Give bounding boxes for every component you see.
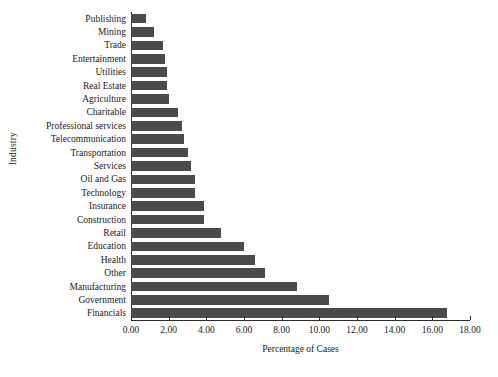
- category-label: Telecommunication: [51, 133, 126, 145]
- x-tick-label: 10.00: [309, 325, 330, 335]
- y-axis-title: Industry: [8, 132, 22, 165]
- bar: [131, 14, 146, 24]
- bar-row: Mining: [131, 25, 470, 38]
- category-label: Government: [79, 294, 127, 306]
- category-label: Trade: [104, 39, 126, 51]
- category-label: Agriculture: [82, 93, 126, 105]
- bar-row: Retail: [131, 226, 470, 239]
- bar-row: Insurance: [131, 199, 470, 212]
- x-tick-mark: [282, 316, 283, 320]
- x-tick-label: 0.00: [123, 325, 140, 335]
- category-label: Education: [87, 240, 126, 252]
- bar-row: Utilities: [131, 66, 470, 79]
- bar: [131, 255, 255, 265]
- bar: [131, 67, 167, 77]
- bar-row: Oil and Gas: [131, 173, 470, 186]
- category-label: Retail: [103, 227, 126, 239]
- x-tick-label: 18.00: [459, 325, 480, 335]
- x-tick-label: 2.00: [160, 325, 177, 335]
- bar: [131, 41, 163, 51]
- category-label: Services: [94, 160, 126, 172]
- x-tick-label: 14.00: [384, 325, 405, 335]
- bar: [131, 94, 169, 104]
- bar-rows: PublishingMiningTradeEntertainmentUtilit…: [131, 12, 470, 320]
- bar: [131, 81, 167, 91]
- bar-row: Telecommunication: [131, 133, 470, 146]
- bar-row: Charitable: [131, 106, 470, 119]
- bar-row: Government: [131, 293, 470, 306]
- x-axis-title: Percentage of Cases: [131, 344, 470, 354]
- bar-row: Technology: [131, 186, 470, 199]
- x-tick-label: 12.00: [346, 325, 367, 335]
- x-tick-mark: [395, 316, 396, 320]
- category-label: Entertainment: [72, 53, 126, 65]
- bar-chart: Industry PublishingMiningTradeEntertainm…: [0, 0, 498, 377]
- bar: [131, 215, 204, 225]
- bar: [131, 161, 191, 171]
- x-tick-label: 8.00: [273, 325, 290, 335]
- bar-row: Agriculture: [131, 92, 470, 105]
- x-tick-mark: [357, 316, 358, 320]
- plot-area: PublishingMiningTradeEntertainmentUtilit…: [131, 12, 470, 320]
- category-label: Construction: [77, 214, 126, 226]
- bar: [131, 295, 329, 305]
- category-label: Health: [101, 254, 126, 266]
- x-tick-mark: [470, 316, 471, 320]
- category-label: Mining: [98, 26, 126, 38]
- bar: [131, 121, 182, 131]
- bar: [131, 134, 184, 144]
- bar-row: Professional services: [131, 119, 470, 132]
- x-tick-mark: [319, 316, 320, 320]
- bar: [131, 54, 165, 64]
- bar: [131, 308, 447, 318]
- bar-row: Transportation: [131, 146, 470, 159]
- category-label: Financials: [87, 307, 126, 319]
- bar: [131, 188, 195, 198]
- bar-row: Health: [131, 253, 470, 266]
- category-label: Utilities: [95, 66, 126, 78]
- bar: [131, 268, 265, 278]
- x-tick-label: 6.00: [236, 325, 253, 335]
- category-label: Professional services: [46, 120, 126, 132]
- bar-row: Real Estate: [131, 79, 470, 92]
- x-tick-label: 4.00: [198, 325, 215, 335]
- category-label: Charitable: [86, 106, 126, 118]
- x-tick-mark: [131, 316, 132, 320]
- bar: [131, 282, 297, 292]
- category-label: Other: [104, 267, 126, 279]
- bar: [131, 175, 195, 185]
- bar: [131, 228, 221, 238]
- bar-row: Financials: [131, 307, 470, 320]
- bar-row: Entertainment: [131, 52, 470, 65]
- bar: [131, 148, 188, 158]
- bar: [131, 201, 204, 211]
- x-tick-mark: [244, 316, 245, 320]
- bar: [131, 108, 178, 118]
- category-label: Publishing: [85, 13, 126, 25]
- bar-row: Other: [131, 266, 470, 279]
- x-tick-label: 16.00: [422, 325, 443, 335]
- bar: [131, 27, 154, 37]
- bar-row: Manufacturing: [131, 280, 470, 293]
- bar-row: Trade: [131, 39, 470, 52]
- category-label: Oil and Gas: [81, 173, 126, 185]
- category-label: Transportation: [70, 147, 126, 159]
- category-label: Insurance: [89, 200, 126, 212]
- category-label: Technology: [81, 187, 126, 199]
- x-tick-mark: [206, 316, 207, 320]
- x-axis-line: [131, 320, 470, 321]
- bar-row: Publishing: [131, 12, 470, 25]
- bar-row: Construction: [131, 213, 470, 226]
- bar-row: Services: [131, 159, 470, 172]
- x-tick-mark: [432, 316, 433, 320]
- bar-row: Education: [131, 240, 470, 253]
- category-label: Real Estate: [83, 80, 126, 92]
- x-tick-mark: [169, 316, 170, 320]
- bar: [131, 242, 244, 252]
- category-label: Manufacturing: [70, 281, 126, 293]
